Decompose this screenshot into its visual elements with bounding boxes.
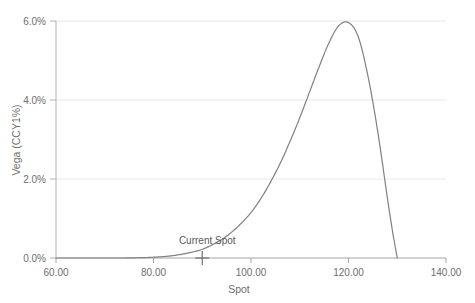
x-tick-label-120: 120.00 [333,267,364,278]
x-tick-label-60: 60.00 [43,267,68,278]
x-axis-title: Spot [228,283,250,295]
gridlines [56,21,446,179]
vega-curve [56,22,397,258]
y-axis-title: Vega (CCY1%) [10,104,22,175]
x-tick-label-140: 140.00 [431,267,462,278]
chart-canvas: 6.0% 4.0% 2.0% 0.0% 60.00 80.00 100.00 1… [0,0,475,303]
y-tick-label-2pct: 2.0% [23,174,46,185]
y-axis-ticks [50,21,56,258]
x-axis-ticks [56,258,446,263]
current-spot-annotation: Current Spot [179,235,236,265]
current-spot-label: Current Spot [179,235,236,246]
y-tick-label-0pct: 0.0% [23,253,46,264]
y-tick-label-6pct: 6.0% [23,16,46,27]
vega-spot-chart: 6.0% 4.0% 2.0% 0.0% 60.00 80.00 100.00 1… [0,0,475,303]
x-tick-label-80: 80.00 [141,267,166,278]
x-tick-label-100: 100.00 [236,267,267,278]
x-axis-tick-labels: 60.00 80.00 100.00 120.00 140.00 [43,267,461,278]
y-tick-label-4pct: 4.0% [23,95,46,106]
y-axis-tick-labels: 6.0% 4.0% 2.0% 0.0% [23,16,46,264]
